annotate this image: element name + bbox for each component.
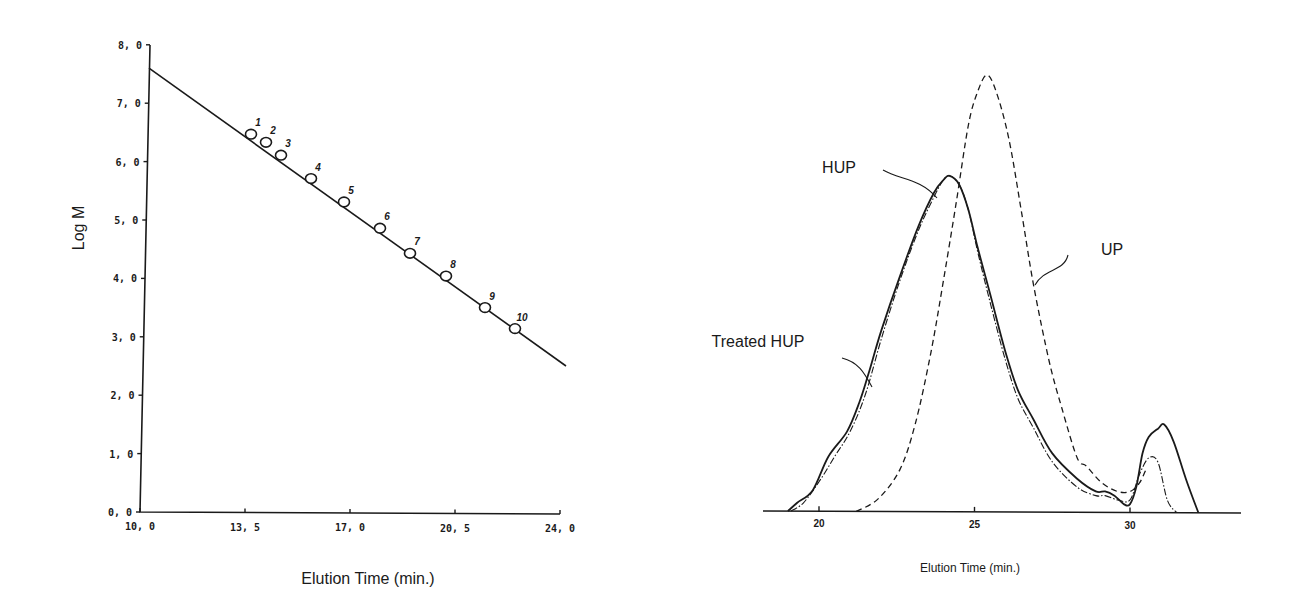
- up-label: UP: [1101, 241, 1123, 258]
- left-y-axis-label: Log M: [70, 206, 87, 250]
- x-tick-label: 25: [969, 519, 981, 530]
- calibration-point-label: 9: [489, 291, 495, 302]
- right-x-ticks: 202530: [813, 506, 1136, 530]
- calibration-fit-line: [149, 68, 566, 366]
- calibration-point-label: 1: [255, 117, 261, 128]
- up-pointer: [1035, 255, 1068, 285]
- y-tick-label: 6, 0: [115, 157, 139, 168]
- y-tick-label: 2, 0: [110, 390, 134, 401]
- treated-hup-pointer: [842, 358, 872, 387]
- left-x-axis-label: Elution Time (min.): [301, 570, 434, 587]
- calibration-point-label: 8: [450, 259, 456, 270]
- calibration-point-label: 5: [348, 185, 354, 196]
- calibration-point: [306, 174, 317, 184]
- calibration-point-label: 2: [269, 125, 276, 136]
- hup-curve: [788, 176, 1199, 513]
- x-tick-label: 20: [813, 518, 825, 529]
- calibration-point: [441, 271, 452, 281]
- calibration-point: [375, 223, 386, 233]
- y-tick-label: 3, 0: [112, 332, 136, 343]
- right-x-axis: [763, 511, 1241, 513]
- x-tick-label: 13, 5: [230, 522, 260, 533]
- calibration-point: [246, 129, 257, 139]
- calibration-point-label: 7: [414, 236, 420, 247]
- x-tick-label: 24, 0: [545, 523, 575, 534]
- left-axes: [140, 45, 560, 514]
- y-tick-label: 5, 0: [114, 215, 138, 226]
- y-tick-label: 0, 0: [108, 507, 132, 518]
- hup-pointer: [883, 170, 937, 198]
- calibration-point-label: 4: [314, 162, 321, 173]
- calibration-point-label: 10: [516, 312, 528, 323]
- calibration-point-label: 6: [384, 211, 390, 222]
- calibration-point: [261, 138, 272, 148]
- y-tick-label: 4, 0: [113, 273, 137, 284]
- calibration-point: [480, 303, 491, 313]
- x-tick-label: 20, 5: [440, 523, 470, 534]
- right-x-axis-label: Elution Time (min.): [920, 561, 1020, 575]
- treated-hup-label: Treated HUP: [712, 333, 805, 350]
- calibration-points: 12345678910: [246, 117, 528, 333]
- x-tick-label: 10, 0: [125, 521, 155, 532]
- calibration-point-label: 3: [285, 138, 291, 149]
- y-tick-label: 7, 0: [117, 98, 141, 109]
- up-curve: [856, 75, 1145, 511]
- figure-canvas: 0, 01, 02, 03, 04, 05, 06, 07, 08, 0 10,…: [0, 0, 1307, 614]
- calibration-point: [339, 197, 350, 207]
- x-tick-label: 30: [1124, 520, 1136, 531]
- x-tick-label: 17, 0: [335, 522, 365, 533]
- calibration-point: [510, 324, 521, 334]
- y-tick-label: 8, 0: [118, 40, 142, 51]
- left-y-ticks: 0, 01, 02, 03, 04, 05, 06, 07, 08, 0: [108, 40, 150, 518]
- calibration-point: [276, 150, 287, 160]
- hup-label: HUP: [822, 159, 856, 176]
- treated-hup-curve: [791, 176, 1177, 513]
- calibration-chart: 0, 01, 02, 03, 04, 05, 06, 07, 08, 0 10,…: [70, 40, 575, 587]
- calibration-point: [405, 248, 416, 258]
- y-tick-label: 1, 0: [109, 449, 133, 460]
- figure: 0, 01, 02, 03, 04, 05, 06, 07, 08, 0 10,…: [0, 0, 1307, 614]
- chromatogram-chart: 202530 HUP UP Treated HUP Elution Time (…: [712, 75, 1241, 575]
